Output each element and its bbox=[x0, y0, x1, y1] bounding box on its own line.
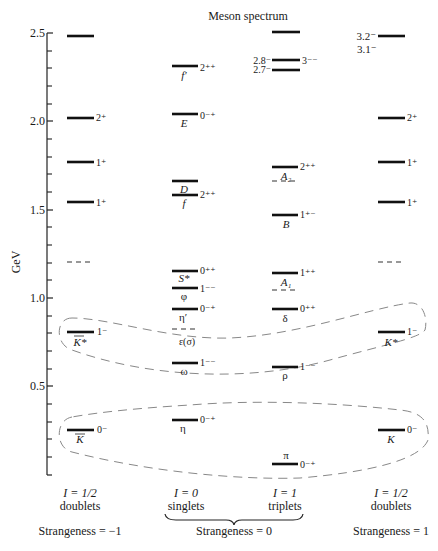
strangeness-label-c1: Strangeness = −1 bbox=[39, 524, 122, 538]
jpc-label: 1⁺⁻ bbox=[300, 209, 316, 220]
jpc-label: 1⁺ bbox=[407, 197, 417, 208]
tick-1-5: 1.5 bbox=[30, 203, 45, 217]
jpc-label: 0⁻⁺ bbox=[200, 414, 216, 425]
vector-nonet-loop bbox=[59, 303, 426, 374]
multiplet-label-c2: singlets bbox=[168, 499, 205, 513]
jpc-label: 0⁻⁺ bbox=[200, 303, 216, 314]
isospin-label-c2: I = 0 bbox=[173, 486, 198, 500]
particle-label-k-bar: K bbox=[75, 433, 84, 445]
isospin-label-c3: I = 1 bbox=[272, 486, 297, 500]
jpc-label: 1⁺ bbox=[96, 197, 106, 208]
particle-label-kstar-bar: K* bbox=[73, 336, 87, 348]
column-singlets: f′ 2⁺⁺ E 0⁻⁺ D f 2⁺⁺ S* 0⁺⁺ φ 1⁻⁻ η′ 0⁻⁺… bbox=[172, 62, 216, 434]
jpc-label: 2⁺⁺ bbox=[200, 62, 216, 73]
jpc-label: 1⁻ bbox=[407, 326, 417, 337]
particle-label-D: D bbox=[179, 183, 188, 195]
jpc-label: 2⁺⁺ bbox=[200, 189, 216, 200]
particle-label-f: f bbox=[182, 197, 187, 209]
jpc-label: 2⁺ bbox=[96, 112, 106, 123]
jpc-label: 0⁻⁺ bbox=[200, 110, 216, 121]
particle-label-delta: δ bbox=[282, 312, 287, 324]
note-3-1: 3.1⁻ bbox=[357, 43, 377, 55]
isospin-label-c4: I = 1/2 bbox=[373, 486, 407, 500]
jpc-label: 2⁺⁺ bbox=[300, 161, 316, 172]
column-triplets: 2.8⁻ 3⁻⁻ 2.7⁻ A₂ 2⁺⁺ B 1⁺⁻ A₁ 1⁺⁺ δ 0⁺⁺ … bbox=[253, 32, 317, 470]
strangeness-label-c4: Strangeness = 1 bbox=[353, 524, 429, 538]
note-3-2: 3.2⁻ bbox=[356, 30, 376, 42]
particle-label-k: K bbox=[386, 433, 395, 445]
particle-label-B: B bbox=[283, 218, 290, 230]
isospin-label-c1: I = 1/2 bbox=[62, 486, 96, 500]
column-k-doublets: 3.2⁻ 3.1⁻ 2⁺ 1⁺ 1⁺ 1⁻ K* 0⁻ K bbox=[356, 30, 417, 445]
jpc-label: 0⁺⁺ bbox=[200, 265, 216, 276]
y-axis: 2.5 2.0 1.5 1.0 0.5 GeV bbox=[9, 26, 53, 475]
jpc-label: 0⁻ bbox=[97, 424, 107, 435]
jpc-label: 0⁻⁺ bbox=[300, 459, 316, 470]
particle-label-f-prime: f′ bbox=[181, 69, 187, 81]
tick-2-5: 2.5 bbox=[30, 26, 45, 40]
diagram-title: Meson spectrum bbox=[208, 9, 288, 23]
jpc-label: 1⁺ bbox=[407, 157, 417, 168]
meson-spectrum-diagram: Meson spectrum 2.5 2.0 1.5 1.0 0.5 GeV bbox=[0, 0, 438, 551]
pseudoscalar-nonet-loop bbox=[59, 402, 428, 478]
column-footers: I = 1/2 doublets Strangeness = −1 I = 0 … bbox=[39, 486, 429, 538]
particle-label-rho: ρ bbox=[282, 369, 288, 381]
particle-label-eta-prime: η′ bbox=[179, 311, 187, 323]
column-kbar-doublets: 2⁺ 1⁺ 1⁺ 1⁻ K* 0⁻ K bbox=[67, 36, 107, 445]
strangeness-label-shared: Strangeness = 0 bbox=[196, 524, 272, 538]
multiplet-label-c3: triplets bbox=[268, 499, 302, 513]
particle-label-epsilon-sigma: ε(σ) bbox=[179, 336, 195, 348]
jpc-label: 1⁻⁻ bbox=[300, 361, 316, 372]
particle-label-A1: A₁ bbox=[280, 276, 292, 288]
particle-label-S-star: S* bbox=[179, 272, 191, 284]
tick-1-0: 1.0 bbox=[30, 291, 45, 305]
note-2-7: 2.7⁻ bbox=[253, 64, 271, 75]
particle-label-phi: φ bbox=[181, 290, 187, 302]
tick-0-5: 0.5 bbox=[30, 379, 45, 393]
jpc-label: 2⁺ bbox=[407, 112, 417, 123]
tick-2-0: 2.0 bbox=[30, 114, 45, 128]
multiplet-label-c1: doublets bbox=[60, 499, 101, 513]
particle-label-eta: η bbox=[180, 422, 186, 434]
particle-label-kstar: K* bbox=[384, 336, 398, 348]
particle-label-omega: ω bbox=[180, 365, 187, 377]
jpc-label: 0⁺⁺ bbox=[300, 303, 316, 314]
jpc-label: 0⁻ bbox=[407, 424, 417, 435]
axis-label-gev: GeV bbox=[9, 250, 23, 273]
jpc-label: 1⁺ bbox=[96, 157, 106, 168]
jpc-label: 3⁻⁻ bbox=[302, 55, 318, 66]
particle-label-E: E bbox=[180, 117, 188, 129]
multiplet-label-c4: doublets bbox=[371, 499, 412, 513]
particle-label-pi: π bbox=[283, 449, 289, 461]
jpc-label: 1⁻⁻ bbox=[200, 283, 216, 294]
jpc-label: 1⁺⁺ bbox=[300, 267, 316, 278]
jpc-label: 1⁻⁻ bbox=[200, 357, 216, 368]
jpc-label: 1⁻ bbox=[97, 326, 107, 337]
